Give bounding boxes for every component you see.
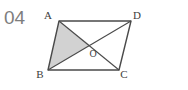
intersection-label-o: O [89, 48, 96, 59]
geometry-diagram: A D C B O [0, 0, 188, 90]
figure-container: 04 A D C B O [0, 0, 188, 90]
vertex-label-a: A [44, 9, 52, 21]
vertex-label-b: B [36, 68, 43, 80]
vertex-label-d: D [133, 9, 141, 21]
vertex-label-c: C [120, 68, 127, 80]
shaded-triangle-abo [48, 21, 90, 70]
